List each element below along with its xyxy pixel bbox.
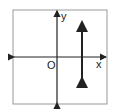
- y-axis-label: y: [61, 11, 67, 22]
- coordinate-plane: [0, 0, 115, 112]
- x-axis-label: x: [96, 59, 102, 70]
- origin-label: O: [47, 60, 56, 71]
